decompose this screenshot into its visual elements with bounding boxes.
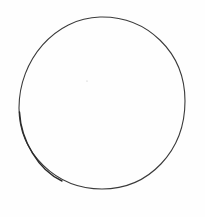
paper-speck: [86, 80, 87, 81]
circle-outline-heavy-segment: [20, 112, 63, 181]
circle-drawing: [0, 0, 205, 217]
circle-outline: [19, 17, 185, 189]
drawing-canvas: [0, 0, 205, 217]
